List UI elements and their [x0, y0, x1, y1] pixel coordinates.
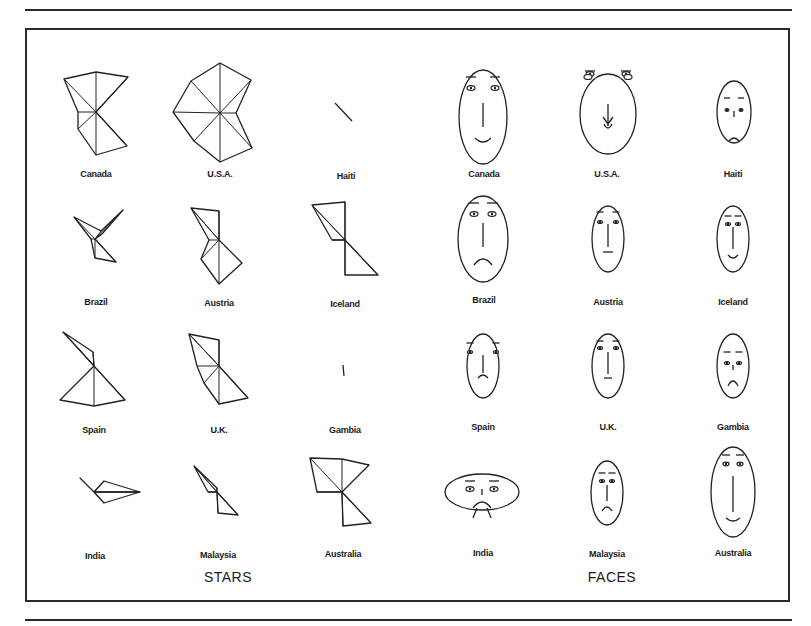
face-glyph-brazil	[458, 196, 508, 282]
star-glyph-usa	[173, 63, 252, 162]
face-label: U.S.A.	[557, 169, 657, 179]
star-glyph-haiti	[335, 103, 352, 121]
face-glyph-iceland	[717, 206, 749, 272]
star-glyph-canada	[64, 72, 128, 155]
face-label: Brazil	[434, 295, 534, 305]
star-label: U.K.	[169, 425, 269, 435]
face-label: India	[433, 548, 533, 558]
face-label: U.K.	[558, 422, 658, 432]
face-glyph-australia	[711, 447, 755, 537]
face-glyph-austria	[592, 206, 624, 272]
star-glyph-iceland	[312, 202, 378, 275]
face-label: Australia	[683, 548, 783, 558]
star-glyph-india	[80, 478, 140, 503]
star-glyph-uk	[189, 334, 248, 404]
star-label: Malaysia	[168, 550, 268, 560]
face-label: Gambia	[683, 422, 783, 432]
stars-panel	[60, 63, 378, 526]
face-label: Canada	[434, 169, 534, 179]
face-glyph-usa	[580, 71, 636, 154]
face-glyph-uk	[592, 334, 624, 398]
star-label: Canada	[46, 169, 146, 179]
star-label: Spain	[44, 425, 144, 435]
star-label: Iceland	[295, 299, 395, 309]
star-glyph-australia	[310, 458, 371, 526]
face-glyph-canada	[459, 70, 507, 164]
star-glyph-austria	[191, 208, 242, 284]
face-glyph-haiti	[717, 81, 751, 143]
star-label: India	[45, 551, 145, 561]
face-label: Haiti	[683, 169, 783, 179]
star-label: U.S.A.	[170, 169, 270, 179]
star-glyph-gambia	[343, 365, 344, 376]
section-title-faces: FACES	[552, 569, 672, 585]
face-label: Austria	[558, 297, 658, 307]
face-glyph-india	[445, 474, 519, 518]
star-label: Gambia	[295, 425, 395, 435]
section-title-stars: STARS	[168, 569, 288, 585]
figure-canvas	[0, 0, 811, 626]
face-glyph-gambia	[717, 334, 749, 398]
face-label: Malaysia	[557, 549, 657, 559]
star-glyph-spain	[60, 332, 125, 406]
face-glyph-spain	[467, 334, 500, 398]
star-glyph-malaysia	[194, 466, 238, 515]
star-label: Austria	[169, 298, 269, 308]
star-label: Brazil	[46, 297, 146, 307]
face-label: Iceland	[683, 297, 783, 307]
star-label: Australia	[293, 549, 393, 559]
star-glyph-brazil	[74, 210, 123, 262]
face-label: Spain	[433, 422, 533, 432]
face-glyph-malaysia	[591, 461, 623, 525]
star-label: Haiti	[296, 171, 396, 181]
